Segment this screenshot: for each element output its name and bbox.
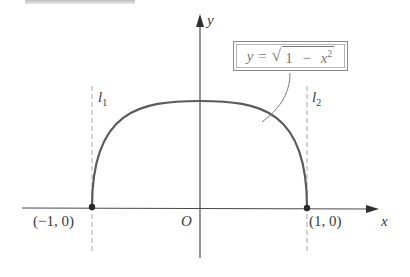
equation-leader-line	[262, 73, 290, 122]
y-axis-label: y	[207, 13, 214, 28]
equation-callout-inner: y = √ 1 − x2	[236, 44, 345, 68]
equation-equals: =	[258, 48, 266, 65]
x-axis-label: x	[381, 214, 388, 229]
equation-lhs: y	[247, 48, 254, 65]
radicand-minus: −	[302, 50, 310, 66]
x-axis	[22, 208, 370, 209]
semicircle-plot	[0, 0, 410, 277]
line-l2-label: l2	[312, 90, 321, 105]
point-neg1-0-label: (−1, 0)	[33, 214, 74, 229]
figure-canvas: y = √ 1 − x2 y x O l1 l2 (−1, 0) (1, 0)	[0, 0, 410, 277]
line-l1-subscript: 1	[102, 97, 107, 108]
equation-callout-box: y = √ 1 − x2	[233, 41, 348, 71]
point-neg1-0	[89, 204, 95, 210]
line-l2-subscript: 2	[316, 97, 321, 108]
radicand-exponent: 2	[327, 48, 332, 59]
line-l1-label: l1	[98, 90, 107, 105]
y-axis-arrow-icon	[196, 14, 204, 27]
origin-label: O	[181, 214, 192, 229]
equation-radicand: 1 − x2	[282, 46, 334, 67]
point-1-0-label: (1, 0)	[309, 214, 342, 229]
point-1-0	[304, 205, 310, 211]
radical-sign-icon: √	[272, 46, 281, 66]
x-axis-arrow-icon	[366, 205, 379, 213]
radicand-one: 1	[285, 50, 293, 66]
